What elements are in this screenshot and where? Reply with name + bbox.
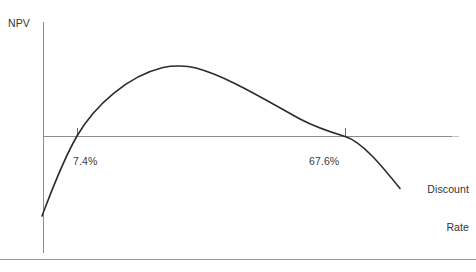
irr-high-label: 67.6%	[309, 155, 339, 167]
x-axis-label: Discount Rate	[343, 158, 469, 258]
x-axis-label-line2: Rate	[343, 221, 469, 234]
npv-profile-chart: NPV 7.4% 67.6% Discount Rate	[0, 0, 476, 272]
x-axis-label-line1: Discount	[343, 183, 469, 196]
bottom-divider	[0, 259, 476, 260]
irr-low-label: 7.4%	[73, 155, 97, 167]
y-axis-label: NPV	[8, 17, 30, 29]
